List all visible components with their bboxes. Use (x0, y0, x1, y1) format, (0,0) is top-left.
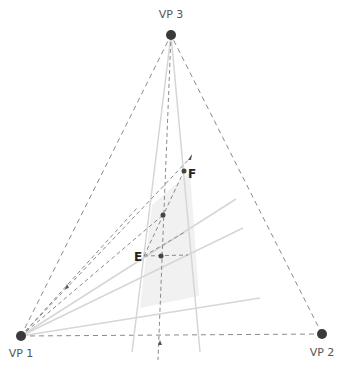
point-P1 (161, 213, 166, 218)
point-F (182, 169, 187, 174)
vp3-label: VP 3 (159, 8, 184, 21)
vp1-label: VP 1 (9, 347, 34, 360)
point-E-label: E (134, 250, 142, 264)
point-F-label: F (188, 167, 196, 181)
vp1-ray-2 (21, 228, 243, 336)
vp1-ray-1 (21, 199, 236, 336)
vp1-solid-lines (21, 199, 260, 336)
vp1-ray-upper (21, 207, 138, 336)
vp2-dot (317, 329, 327, 339)
perspective-diagram: VP 3 VP 1 VP 2 F E (0, 0, 347, 374)
arrow-icon (158, 340, 162, 345)
vp3-dot (166, 30, 176, 40)
arrow-icon (188, 154, 192, 160)
vp1-dot (16, 331, 26, 341)
point-P2 (159, 254, 164, 259)
vp1-vp2-line (21, 334, 322, 336)
vp2-label: VP 2 (310, 346, 335, 359)
vp1-ray-3 (21, 298, 260, 336)
